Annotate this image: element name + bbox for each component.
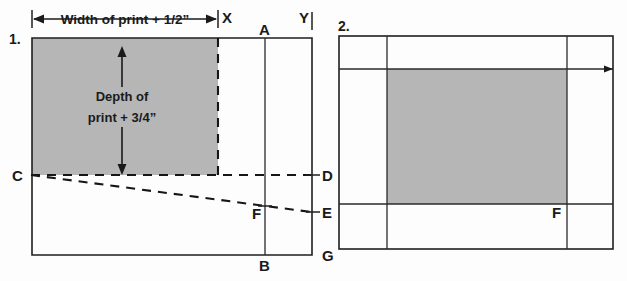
- figure-svg: 1. Width of print + 1/2” Depth of print …: [0, 0, 627, 281]
- diagram1-width-dimension-label: Width of print + 1/2”: [61, 12, 190, 27]
- diagram1-depth-note-line2: print + 3/4”: [88, 110, 156, 125]
- diagram1-depth-note-line1: Depth of: [96, 89, 149, 104]
- diagram1-label-a: A: [259, 21, 270, 38]
- diagram1-label-g: G: [322, 247, 334, 264]
- diagram2-label-f: F: [552, 204, 561, 221]
- diagram2-print-area-fill: [387, 69, 567, 204]
- diagram-2-group: 2. F: [338, 18, 613, 249]
- diagram-1-group: 1. Width of print + 1/2” Depth of print …: [9, 9, 334, 274]
- diagram1-print-area-fill: [32, 38, 218, 175]
- diagram1-number-label: 1.: [9, 31, 21, 47]
- diagram2-arrow-head: [604, 66, 613, 73]
- diagram1-label-b: B: [259, 257, 270, 274]
- diagram1-label-d: D: [322, 167, 333, 184]
- diagram1-label-y: Y: [299, 9, 309, 26]
- diagram1-label-c: C: [12, 167, 23, 184]
- diagram1-label-e: E: [322, 204, 332, 221]
- diagram1-label-f: F: [252, 205, 261, 222]
- diagram1-label-x: X: [222, 9, 232, 26]
- diagram-canvas: 1. Width of print + 1/2” Depth of print …: [0, 0, 627, 281]
- diagram2-number-label: 2.: [338, 18, 350, 34]
